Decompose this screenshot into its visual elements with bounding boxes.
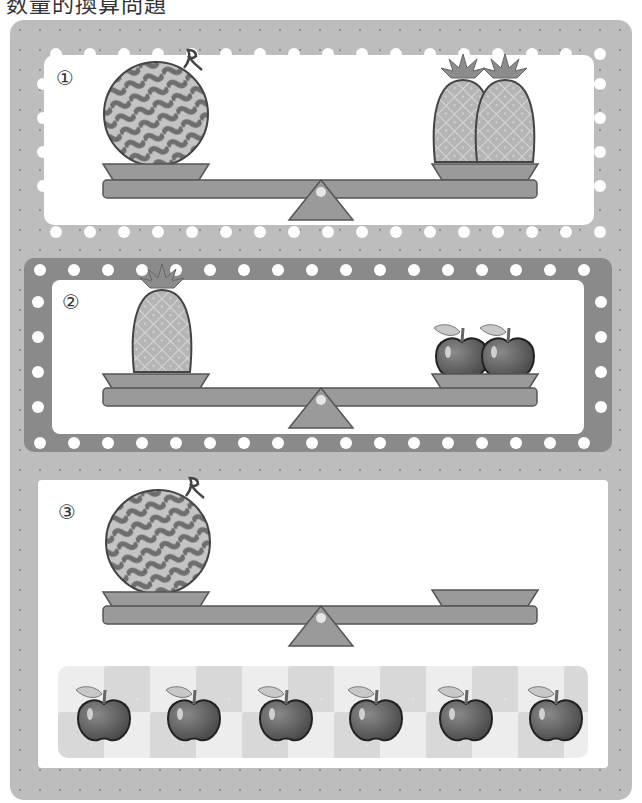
apple-choice-4[interactable]	[348, 687, 402, 741]
apple-choice-3[interactable]	[258, 687, 312, 741]
apple-choice-5[interactable]	[438, 687, 492, 741]
apple-choices	[0, 0, 642, 803]
apple-choice-6[interactable]	[528, 687, 582, 741]
apple-choice-1[interactable]	[76, 687, 130, 741]
apple-choice-2[interactable]	[166, 687, 220, 741]
